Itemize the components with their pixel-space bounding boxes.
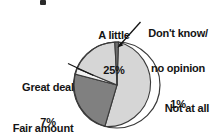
slice-label-great-deal-name: Great deal <box>13 82 83 94</box>
slice-label-fair-amount-name: Fair amount <box>0 123 86 134</box>
slice-label-not-at-all-name: Not at all <box>157 103 217 115</box>
slice-label-a-little-name: A little <box>86 30 142 42</box>
slice-label-a-little: A little 25% <box>86 6 142 101</box>
pie-chart: A little 25% Don't know/ no opinion 1% G… <box>0 0 219 134</box>
slice-label-not-at-all: Not at all 46% <box>157 79 217 134</box>
slice-label-a-little-value: 25% <box>86 65 142 77</box>
slice-label-dont-know-line2: no opinion <box>139 63 217 75</box>
slice-label-fair-amount: Fair amount 21% <box>0 99 86 134</box>
slice-label-dont-know-line1: Don't know/ <box>139 28 217 40</box>
